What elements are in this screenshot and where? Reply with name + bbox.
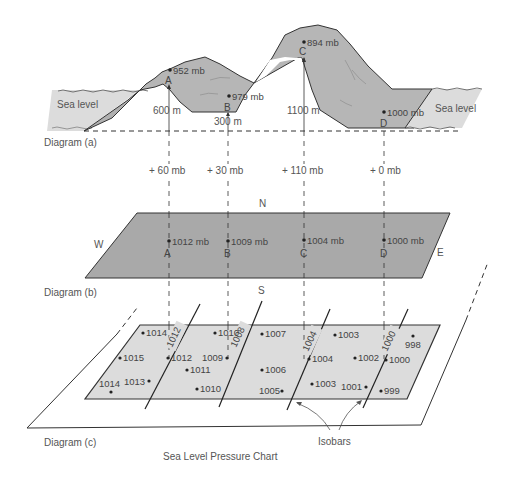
svg-text:B: B	[224, 102, 231, 113]
svg-text:+ 110 mb: + 110 mb	[282, 165, 324, 176]
svg-text:1013: 1013	[124, 376, 145, 387]
svg-text:998: 998	[405, 339, 421, 350]
chart-title: Sea Level Pressure Chart	[163, 451, 278, 462]
svg-text:Diagram (b): Diagram (b)	[44, 287, 97, 298]
svg-text:1014: 1014	[99, 378, 120, 389]
pressure-corrections: + 60 mb + 30 mb + 110 mb + 0 mb	[146, 164, 410, 176]
svg-text:D: D	[380, 248, 387, 259]
svg-text:600 m: 600 m	[153, 105, 181, 116]
svg-text:1015: 1015	[123, 352, 144, 363]
svg-text:1000 mb: 1000 mb	[387, 107, 424, 118]
svg-text:A: A	[165, 75, 172, 86]
svg-text:W: W	[94, 239, 104, 250]
svg-text:1012 mb: 1012 mb	[172, 236, 209, 247]
svg-text:1100 m: 1100 m	[287, 105, 320, 116]
svg-text:Sea level: Sea level	[57, 99, 98, 110]
svg-text:1010: 1010	[200, 383, 221, 394]
svg-text:Diagram (a): Diagram (a)	[44, 137, 97, 148]
svg-text:1004 mb: 1004 mb	[307, 235, 344, 246]
svg-text:999: 999	[384, 385, 400, 396]
svg-text:C: C	[299, 46, 306, 57]
svg-text:S: S	[258, 285, 265, 296]
svg-text:A: A	[164, 248, 171, 259]
isobars-label: Isobars	[318, 436, 351, 447]
svg-text:1000 mb: 1000 mb	[387, 235, 424, 246]
diagram-c-label: Diagram (c)	[44, 437, 96, 448]
sea-level-pressure-chart: 1012 1008 1004 1000 1014 1010 1007 1003 …	[85, 301, 440, 430]
svg-text:1004: 1004	[312, 353, 333, 364]
svg-text:1007: 1007	[265, 328, 286, 339]
svg-text:1011: 1011	[190, 364, 210, 375]
svg-text:1012: 1012	[171, 352, 192, 363]
svg-text:1003: 1003	[315, 378, 336, 389]
svg-text:B: B	[224, 248, 231, 259]
svg-text:1006: 1006	[265, 364, 286, 375]
svg-text:+ 60 mb: + 60 mb	[149, 165, 186, 176]
svg-text:D: D	[380, 118, 387, 129]
svg-text:894 mb: 894 mb	[307, 37, 339, 48]
svg-text:C: C	[300, 248, 307, 259]
svg-text:+ 0 mb: + 0 mb	[370, 165, 401, 176]
svg-text:1005: 1005	[259, 385, 280, 396]
svg-text:N: N	[259, 198, 266, 209]
svg-text:1009 mb: 1009 mb	[231, 236, 268, 247]
svg-text:1010: 1010	[218, 327, 239, 338]
svg-text:1001: 1001	[341, 381, 362, 392]
svg-text:1002: 1002	[358, 352, 379, 363]
svg-text:979 mb: 979 mb	[232, 91, 264, 102]
svg-text:1014: 1014	[146, 327, 167, 338]
svg-text:300 m: 300 m	[214, 116, 242, 127]
diagram-b-plate: N S W E 1012 mb A 1009 mb B 1004 mb C 10…	[44, 198, 450, 298]
svg-text:1003: 1003	[338, 329, 359, 340]
svg-text:952 mb: 952 mb	[173, 65, 205, 76]
svg-text:1009: 1009	[202, 352, 223, 363]
svg-text:Sea level: Sea level	[435, 103, 476, 114]
svg-text:+ 30 mb: + 30 mb	[207, 165, 244, 176]
svg-text:E: E	[437, 247, 444, 258]
pressure-diagram: 952 mb A 979 mb B 894 mb C 1000 mb D 600…	[0, 0, 510, 481]
svg-text:1000: 1000	[389, 354, 410, 365]
